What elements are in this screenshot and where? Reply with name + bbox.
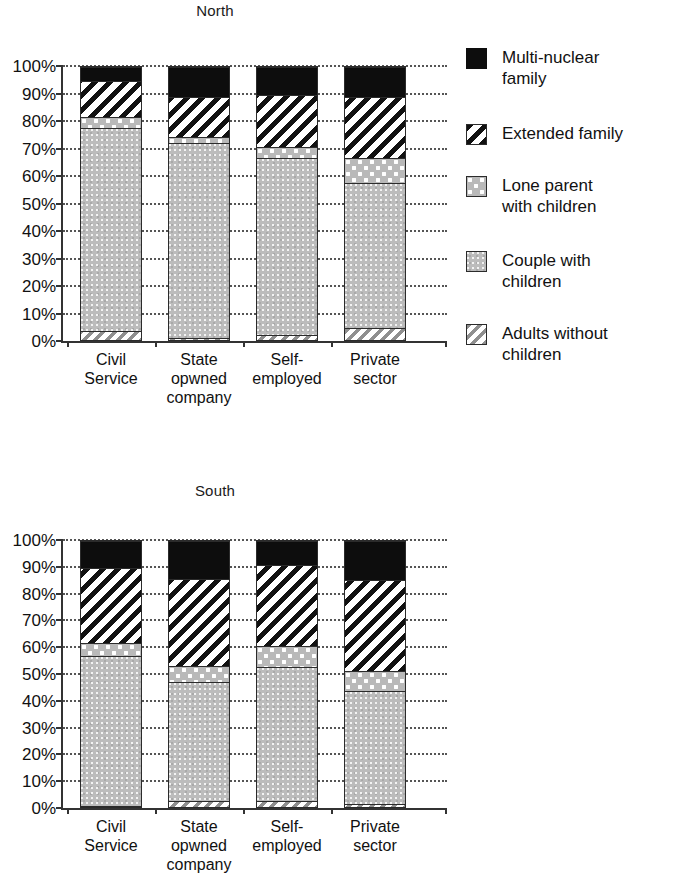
bar-segment-couple-with-children xyxy=(81,128,141,332)
x-axis-category-label-line: sector xyxy=(330,369,420,388)
y-axis-tick-label: 90% xyxy=(22,85,56,102)
x-axis-tick-mark xyxy=(67,341,69,347)
bar-segment-adults-without-children xyxy=(81,331,141,341)
x-axis-category-label-line: Civil xyxy=(66,350,156,369)
chart-north: North 0%10%20%30%40%50%60%70%80%90%100%C… xyxy=(0,0,460,440)
stacked-bar xyxy=(168,66,230,341)
legend-item[interactable]: Couple with children xyxy=(466,250,591,292)
bar-segment-multi-nuclear-family xyxy=(257,67,317,95)
x-axis-line xyxy=(61,808,447,810)
x-axis-category-label-line: opwned xyxy=(154,836,244,855)
x-axis-category-label-line: sector xyxy=(330,836,420,855)
x-axis-tick-mark xyxy=(445,808,447,814)
x-axis-line xyxy=(61,341,447,343)
bar-segment-extended-family xyxy=(81,81,141,117)
x-axis-tick-mark xyxy=(243,808,245,814)
bar-segment-multi-nuclear-family xyxy=(169,67,229,97)
legend-item[interactable]: Multi-nuclear family xyxy=(466,47,599,89)
chart-title-south: South xyxy=(0,482,430,499)
legend-swatch-icon xyxy=(466,124,487,145)
bar-segment-couple-with-children xyxy=(345,183,405,329)
x-axis-category-label: CivilService xyxy=(66,817,156,855)
x-axis-category-label-line: Private xyxy=(330,350,420,369)
bar-segment-adults-without-children xyxy=(81,806,141,808)
y-axis-tick-label: 90% xyxy=(22,558,56,575)
bar-segment-lone-parent-with-children xyxy=(345,671,405,691)
y-axis-tick-label: 60% xyxy=(22,639,56,656)
x-axis-category-label-line: Service xyxy=(66,836,156,855)
x-axis-category-label: Privatesector xyxy=(330,350,420,388)
x-axis-category-label: CivilService xyxy=(66,350,156,388)
bar-segment-multi-nuclear-family xyxy=(257,541,317,565)
x-axis-category-label-line: State xyxy=(154,817,244,836)
stacked-bar xyxy=(344,66,406,341)
bar-segment-couple-with-children xyxy=(257,158,317,335)
bar-segment-adults-without-children xyxy=(169,338,229,341)
bar-segment-lone-parent-with-children xyxy=(257,646,317,667)
legend-item[interactable]: Lone parent with children xyxy=(466,175,597,217)
y-axis-tick-label: 60% xyxy=(22,168,56,185)
bar-segment-extended-family xyxy=(169,97,229,137)
x-axis-category-label-line: Self- xyxy=(242,350,332,369)
x-axis-tick-mark xyxy=(155,808,157,814)
legend-label: Adults without children xyxy=(502,323,608,365)
x-axis-category-label-line: Private xyxy=(330,817,420,836)
bar-segment-multi-nuclear-family xyxy=(345,67,405,97)
bar-segment-lone-parent-with-children xyxy=(81,643,141,656)
x-axis-category-label: Stateopwnedcompany xyxy=(154,350,244,407)
y-axis-tick-label: 40% xyxy=(22,692,56,709)
x-axis-category-label-line: Service xyxy=(66,369,156,388)
y-axis-tick-label: 100% xyxy=(13,58,56,75)
y-axis-tick-label: 80% xyxy=(22,113,56,130)
legend-label: Extended family xyxy=(502,123,623,144)
y-axis-line xyxy=(61,539,63,809)
bar-segment-multi-nuclear-family xyxy=(81,67,141,81)
bar-segment-adults-without-children xyxy=(257,335,317,341)
y-axis-tick-label: 30% xyxy=(22,719,56,736)
legend-label: Couple with children xyxy=(502,250,591,292)
bar-segment-extended-family xyxy=(257,565,317,645)
x-axis-category-label-line: company xyxy=(154,388,244,407)
bar-segment-extended-family xyxy=(345,97,405,158)
legend-swatch-icon xyxy=(466,176,487,197)
y-axis-tick-label: 20% xyxy=(22,278,56,295)
x-axis-category-label-line: opwned xyxy=(154,369,244,388)
y-axis-tick-label: 70% xyxy=(22,140,56,157)
bar-segment-adults-without-children xyxy=(169,801,229,808)
x-axis-category-label-line: Self- xyxy=(242,817,332,836)
bar-segment-lone-parent-with-children xyxy=(345,158,405,183)
bar-segment-couple-with-children xyxy=(169,143,229,338)
bar-segment-adults-without-children xyxy=(257,801,317,808)
stacked-bar xyxy=(80,540,142,808)
bar-segment-multi-nuclear-family xyxy=(169,541,229,579)
x-axis-tick-mark xyxy=(243,341,245,347)
bar-segment-adults-without-children xyxy=(345,328,405,341)
x-axis-category-label-line: company xyxy=(154,855,244,873)
bar-segment-extended-family xyxy=(257,95,317,147)
legend-item[interactable]: Adults without children xyxy=(466,323,608,365)
x-axis-category-label: Stateopwnedcompany xyxy=(154,817,244,873)
bar-segment-lone-parent-with-children xyxy=(257,147,317,158)
y-axis-tick-label: 50% xyxy=(22,666,56,683)
y-axis-tick-label: 100% xyxy=(13,532,56,549)
chart-title-north: North xyxy=(0,2,430,19)
y-axis-tick-label: 30% xyxy=(22,250,56,267)
x-axis-category-label-line: Civil xyxy=(66,817,156,836)
x-axis-tick-mark xyxy=(155,341,157,347)
x-axis-category-label-line: State xyxy=(154,350,244,369)
y-axis-line xyxy=(61,65,63,342)
x-axis-tick-mark xyxy=(331,341,333,347)
bar-segment-multi-nuclear-family xyxy=(345,541,405,580)
y-axis-tick-label: 10% xyxy=(22,773,56,790)
legend-item[interactable]: Extended family xyxy=(466,123,623,145)
y-axis-tick-label: 10% xyxy=(22,305,56,322)
bar-segment-extended-family xyxy=(345,580,405,671)
stacked-bar xyxy=(256,66,318,341)
legend-swatch-icon xyxy=(466,48,487,69)
x-axis-tick-mark xyxy=(445,341,447,347)
bar-segment-couple-with-children xyxy=(345,691,405,804)
legend-label: Lone parent with children xyxy=(502,175,597,217)
x-axis-tick-mark xyxy=(331,808,333,814)
y-axis-tick-label: 40% xyxy=(22,223,56,240)
bar-segment-multi-nuclear-family xyxy=(81,541,141,568)
